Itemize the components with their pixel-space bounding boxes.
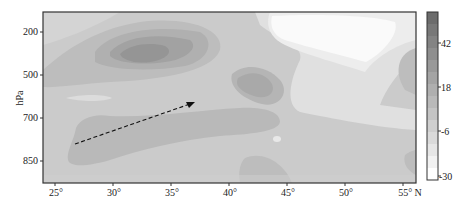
x-tick-label: 50° (339, 187, 353, 198)
colorbar-tick-label: -6 (441, 126, 449, 137)
y-tick-label: 700 (23, 112, 38, 123)
colorbar-tick-label: -30 (439, 171, 452, 182)
x-tick-label: 30° (107, 187, 121, 198)
y-tick-label: 200 (23, 26, 38, 37)
x-tick-label: 40° (223, 187, 237, 198)
x-tick-label: 55° N (398, 187, 422, 198)
colorbar-tick-label: 42 (441, 38, 451, 49)
x-tick-label: 25° (49, 187, 63, 198)
x-tick-label: 45° (281, 187, 295, 198)
contour-chart: 200 500 700 850 hPa 25° 30° 35° 40° 45° … (0, 0, 462, 205)
colorbar-tick-label: 18 (441, 82, 451, 93)
x-axis: 25° 30° 35° 40° 45° 50° 55° N (49, 183, 422, 198)
contour-field (43, 12, 416, 183)
y-axis-label: hPa (14, 90, 25, 106)
y-tick-label: 850 (23, 155, 38, 166)
y-tick-label: 500 (23, 69, 38, 80)
y-axis: 200 500 700 850 hPa (14, 26, 43, 166)
x-tick-label: 35° (165, 187, 179, 198)
colorbar: 42 18 -6 -30 (427, 12, 452, 182)
